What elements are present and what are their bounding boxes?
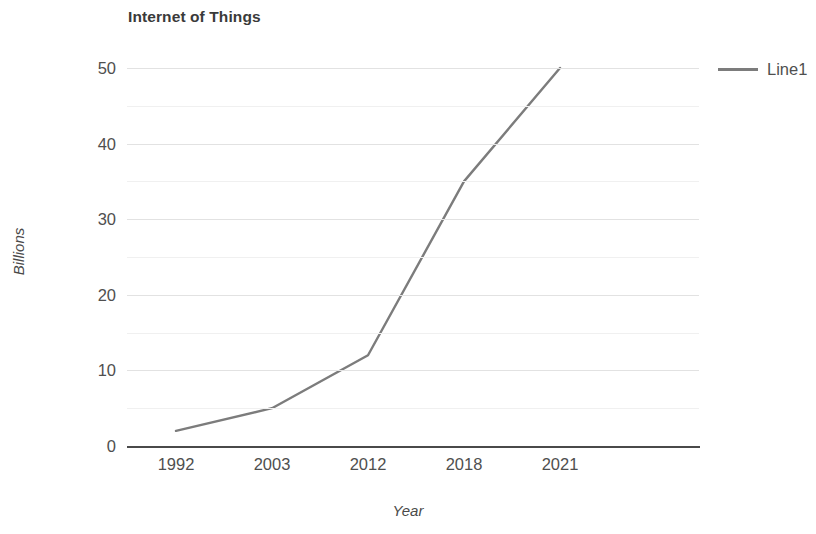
y-axis-tick-label: 40 [76,134,116,153]
gridline-minor [127,106,699,107]
y-axis-tick-label: 10 [76,361,116,380]
gridline-major [127,295,699,296]
y-axis-tick-label: 0 [76,437,116,456]
legend-line-swatch-icon [718,68,758,70]
line-chart: Internet of Things 01020304050 199220032… [0,0,816,534]
chart-title: Internet of Things [128,8,261,26]
gridline-major [127,68,699,69]
gridline-major [127,219,699,220]
x-axis-tick-label: 2018 [419,455,509,474]
x-axis-title: Year [0,502,816,519]
x-axis-tick-label: 2021 [515,455,605,474]
x-axis-tick-label: 2012 [323,455,413,474]
plot-area [127,68,699,446]
x-axis-tick-labels: 19922003201220182021 [127,455,699,483]
gridline-minor [127,257,699,258]
gridline-minor [127,408,699,409]
y-axis-tick-label: 50 [76,59,116,78]
y-axis-title: Billions [10,197,27,307]
x-axis-tick-label: 2003 [227,455,317,474]
y-axis-tick-labels: 01020304050 [72,0,116,534]
gridline-minor [127,333,699,334]
x-axis-line [127,446,700,448]
y-axis-tick-label: 30 [76,210,116,229]
legend-entry-label: Line1 [767,60,807,79]
gridline-minor [127,181,699,182]
x-axis-tick-label: 1992 [131,455,221,474]
y-axis-tick-label: 20 [76,285,116,304]
gridline-major [127,144,699,145]
chart-legend: Line1 [718,60,807,79]
gridline-major [127,370,699,371]
